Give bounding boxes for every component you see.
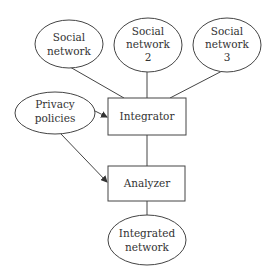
node-social-network-2: Social network 2 <box>114 18 182 72</box>
edge-sn1-integrator <box>70 67 124 98</box>
node-label: Integrator <box>120 110 176 122</box>
node-label: network <box>205 38 250 50</box>
node-label: policies <box>35 112 76 124</box>
node-social-network-3: Social network 3 <box>193 18 261 72</box>
node-label: Social <box>211 25 244 37</box>
node-label: Privacy <box>35 98 75 110</box>
node-label: network <box>125 241 170 253</box>
node-label: 3 <box>224 51 231 63</box>
node-privacy-policies: Privacy policies <box>15 92 95 134</box>
node-label: network <box>126 38 171 50</box>
node-label: Social <box>132 25 165 37</box>
node-integrator: Integrator <box>108 98 186 135</box>
node-label: 2 <box>145 51 152 63</box>
edge-privacy-integrator <box>95 111 107 117</box>
node-label: Analyzer <box>123 177 172 189</box>
edge-sn3-integrator <box>170 70 224 98</box>
node-integrated-network: Integrated network <box>108 215 186 265</box>
node-label: Social <box>53 31 86 43</box>
node-label: Integrated <box>119 227 176 239</box>
node-social-network-1: Social network <box>35 20 103 68</box>
diagram-canvas: Social network Social network 2 Social n… <box>0 0 272 276</box>
node-label: network <box>47 45 92 57</box>
edge-privacy-analyzer <box>61 134 107 182</box>
node-analyzer: Analyzer <box>108 166 185 201</box>
